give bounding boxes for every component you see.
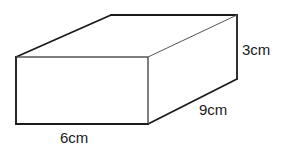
width-label: 6cm — [60, 129, 88, 146]
edge-top-left-slant — [16, 15, 111, 57]
cuboid-diagram: 3cm 9cm 6cm — [0, 0, 286, 149]
edge-top-right-slant — [148, 15, 237, 57]
depth-label: 9cm — [199, 101, 227, 118]
front-face — [16, 57, 148, 124]
height-label: 3cm — [242, 41, 270, 58]
